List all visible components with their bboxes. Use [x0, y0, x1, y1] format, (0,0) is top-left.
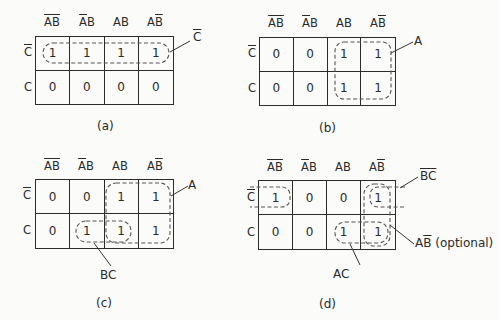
- row-header-c: C: [20, 223, 34, 237]
- cell: 1: [327, 215, 361, 249]
- col-header-a-b-bar: AB: [138, 15, 172, 29]
- col-header-a-bar-b-bar: AABB: [35, 15, 69, 29]
- cell: 0: [36, 71, 70, 105]
- kmap-a-grid: 1 1 1 1 0 0 0 0: [35, 36, 174, 105]
- cell: 1: [36, 37, 70, 71]
- col-header-a-b: AB: [327, 16, 361, 30]
- cell: 0: [293, 215, 327, 249]
- kmap-b-grid: 0 0 1 1 0 0 1 1: [259, 37, 396, 106]
- group-label-ab-bar-optional: AB (optional): [415, 236, 493, 250]
- cell: 0: [294, 72, 328, 106]
- caption-b: (b): [319, 121, 336, 135]
- col-header-a-b-bar: AB: [360, 160, 394, 174]
- kmap-d-grid: 1 0 0 1 0 0 1 1: [258, 180, 396, 250]
- row-header-c-bar: C: [245, 46, 259, 60]
- cell: 1: [259, 181, 293, 215]
- row-header-c-bar: C: [21, 45, 35, 59]
- cell: 0: [139, 71, 173, 105]
- cell: 1: [70, 214, 104, 248]
- group-label-ac: AC: [333, 267, 349, 281]
- col-header-a-b-bar: AB: [138, 159, 172, 173]
- kmap-c-grid: 0 0 1 1 0 1 1 1: [35, 179, 174, 249]
- col-header-a-bar-b: AB: [69, 159, 103, 173]
- group-label-bc: BC: [100, 268, 116, 282]
- cell: 0: [260, 72, 294, 106]
- row-header-c-bar: C: [244, 190, 258, 204]
- col-header-a-bar-b: AB: [293, 16, 327, 30]
- cell: 0: [259, 215, 293, 249]
- col-header-a-b-bar: AB: [361, 16, 395, 30]
- cell: 1: [328, 38, 362, 72]
- row-header-c-bar: C: [20, 188, 34, 202]
- row-header-c: C: [244, 225, 258, 239]
- cell: 1: [328, 72, 362, 106]
- cell: 0: [327, 181, 361, 215]
- group-label-a: A: [414, 34, 422, 48]
- col-header-a-bar-b-bar: AB: [35, 159, 69, 173]
- group-label-a: A: [188, 178, 196, 192]
- col-header-a-bar-b-bar: AB: [259, 16, 293, 30]
- col-header-a-bar-b: AB: [292, 160, 326, 174]
- cell: 1: [105, 37, 139, 71]
- col-header-a-bar-b: AB: [70, 15, 104, 29]
- cell: 1: [139, 214, 173, 248]
- col-header-a-b: AB: [326, 160, 360, 174]
- cell: 1: [105, 180, 139, 214]
- cell: 1: [70, 37, 104, 71]
- cell: 0: [36, 180, 70, 214]
- cell: 1: [139, 180, 173, 214]
- col-header-a-b: AB: [104, 15, 138, 29]
- cell: 1: [105, 214, 139, 248]
- col-header-a-bar-b-bar: AB: [258, 160, 292, 174]
- row-header-c: C: [245, 81, 259, 95]
- caption-a: (a): [97, 119, 114, 133]
- group-label-bc-bar: BC: [420, 169, 436, 183]
- caption-d: (d): [319, 297, 336, 311]
- cell: 1: [139, 37, 173, 71]
- col-header-a-b: AB: [103, 159, 137, 173]
- cell: 1: [361, 38, 395, 72]
- cell: 0: [293, 181, 327, 215]
- cell: 0: [294, 38, 328, 72]
- cell: 0: [260, 38, 294, 72]
- cell: 1: [361, 72, 395, 106]
- group-label-c-bar: C: [193, 30, 201, 44]
- cell: 0: [70, 180, 104, 214]
- row-header-c: C: [21, 80, 35, 94]
- cell: 1: [361, 181, 395, 215]
- cell: 0: [70, 71, 104, 105]
- cell: 1: [361, 215, 395, 249]
- caption-c: (c): [96, 296, 112, 310]
- cell: 0: [105, 71, 139, 105]
- cell: 0: [36, 214, 70, 248]
